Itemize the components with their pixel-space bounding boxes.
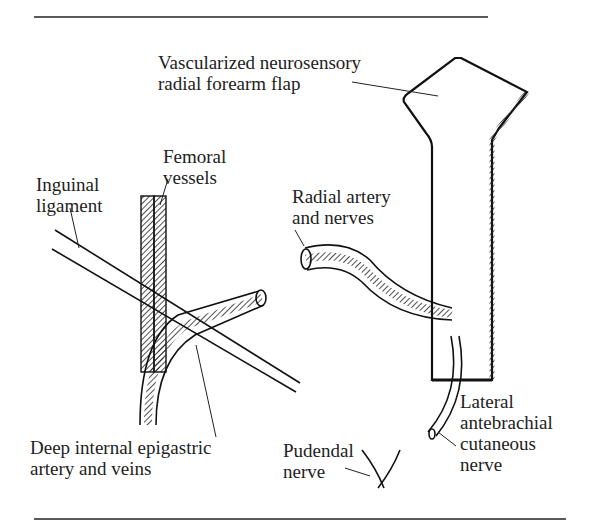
label-pudendal-nerve: Pudendal nerve	[283, 440, 354, 482]
radial-artery	[301, 245, 452, 320]
figure: Vascularized neurosensory radial forearm…	[0, 0, 604, 526]
label-epigastric: Deep internal epigastric artery and vein…	[30, 437, 211, 479]
pudendal-nerve	[362, 450, 400, 488]
label-radial-artery: Radial artery and nerves	[292, 186, 391, 228]
label-femoral-vessels: Femoral vessels	[163, 146, 226, 188]
inguinal-ligament	[52, 230, 300, 392]
forearm-flap	[404, 58, 527, 380]
label-flap: Vascularized neurosensory radial forearm…	[158, 52, 361, 94]
label-lateral-nerve: Lateral antebrachial cutaneous nerve	[460, 391, 553, 475]
label-inguinal-ligament: Inguinal ligament	[36, 174, 102, 216]
